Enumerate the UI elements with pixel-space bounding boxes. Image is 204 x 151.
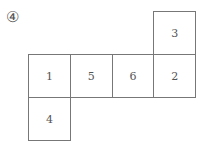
cube-face-5: 5 [70,54,113,98]
cube-face-2: 2 [153,54,196,98]
cube-net-diagram: ④ 315624 [0,0,204,151]
cube-face-3: 3 [153,11,196,55]
cube-face-1: 1 [28,54,71,98]
option-number-label: ④ [6,8,19,26]
cube-face-6: 6 [112,54,155,98]
cube-face-4: 4 [28,97,71,141]
